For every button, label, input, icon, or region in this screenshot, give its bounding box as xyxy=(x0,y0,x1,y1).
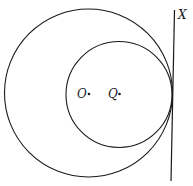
geometry-diagram: O Q X xyxy=(0,0,193,186)
label-o: O xyxy=(77,87,87,101)
point-o-dot xyxy=(88,93,91,96)
label-q: Q xyxy=(108,87,118,101)
label-x: X xyxy=(177,8,187,22)
point-q-dot xyxy=(118,93,121,96)
